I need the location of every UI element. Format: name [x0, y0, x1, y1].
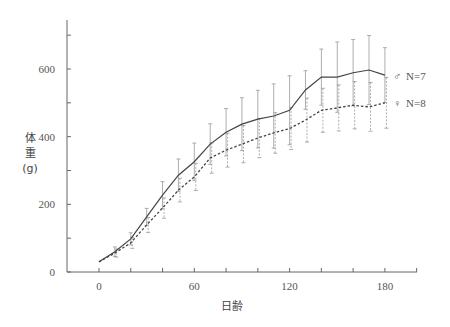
legend-n-label: N=8	[406, 97, 426, 109]
x-tick-label: 0	[96, 280, 102, 292]
x-axis-title: 日齢	[221, 299, 243, 313]
female-symbol-icon: ♀	[393, 97, 401, 109]
y-axis-title-part: 体	[25, 131, 36, 145]
y-axis-title-part: 重	[25, 146, 36, 160]
male-symbol-icon: ♂	[393, 70, 401, 82]
y-axis-ticks: 0200400600	[39, 35, 72, 278]
y-axis-title-part: (g)	[22, 162, 38, 175]
growth-chart: 060120180 0200400600 体重(g) 日齢 ♂N=7♀N=8	[0, 0, 450, 327]
legend-n-label: N=7	[406, 70, 426, 82]
y-tick-label: 600	[39, 63, 56, 75]
error-bars	[113, 36, 389, 258]
y-tick-label: 400	[39, 131, 56, 143]
x-tick-label: 60	[189, 280, 201, 292]
y-tick-label: 0	[50, 266, 56, 278]
y-axis-title: 体重(g)	[22, 131, 38, 175]
legend: ♂N=7♀N=8	[393, 70, 426, 109]
x-tick-label: 120	[281, 280, 298, 292]
x-tick-label: 180	[377, 280, 394, 292]
y-tick-label: 200	[39, 198, 56, 210]
